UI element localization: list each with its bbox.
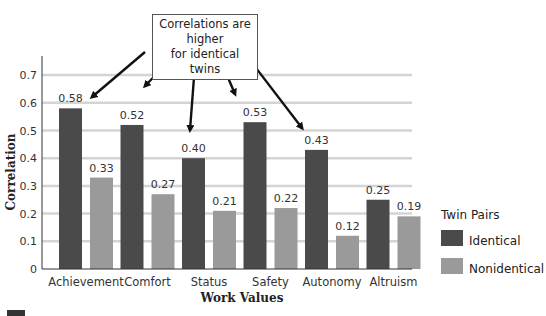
data-label: 0.33: [89, 162, 114, 175]
data-label: 0.19: [397, 200, 422, 213]
x-tick-label: Safety: [252, 275, 289, 289]
annotation-line-1: Correlations are higher: [155, 17, 255, 47]
legend-label-nonidentical: Nonidentical: [469, 262, 544, 276]
x-tick-label: Comfort: [124, 275, 171, 289]
legend-swatch-identical: [441, 230, 463, 246]
y-tick-label: 0: [30, 263, 37, 276]
annotation-line-2: for identical twins: [155, 47, 255, 77]
bar-identical-achievement: [59, 108, 82, 269]
data-label: 0.27: [151, 178, 176, 191]
bar-nonidentical-achievement: [90, 178, 113, 269]
corner-mark: [7, 310, 25, 316]
x-tick-label: Autonomy: [302, 275, 361, 289]
bar-identical-altruism: [367, 200, 390, 269]
bar-identical-status: [182, 158, 205, 269]
bar-nonidentical-autonomy: [336, 236, 359, 269]
y-tick-label: 0.1: [20, 235, 38, 248]
y-tick-label: 0.7: [20, 69, 38, 82]
bar-identical-safety: [244, 122, 267, 269]
legend-title: Twin Pairs: [441, 208, 544, 222]
y-tick-label: 0.2: [20, 208, 38, 221]
data-label: 0.22: [274, 192, 299, 205]
data-label: 0.12: [335, 220, 360, 233]
x-tick-label: Status: [191, 275, 228, 289]
bar-nonidentical-comfort: [152, 194, 175, 269]
data-label: 0.58: [58, 92, 83, 105]
legend: Twin Pairs Identical Nonidentical: [441, 208, 544, 281]
y-axis-ticks: 00.10.20.30.40.50.60.7: [20, 69, 38, 276]
data-label: 0.52: [120, 109, 145, 122]
data-label: 0.40: [181, 142, 206, 155]
data-label: 0.21: [212, 195, 237, 208]
y-tick-label: 0.6: [20, 97, 38, 110]
y-tick-label: 0.3: [20, 180, 38, 193]
bar-nonidentical-safety: [275, 208, 298, 269]
data-label: 0.53: [243, 106, 268, 119]
bar-nonidentical-status: [213, 211, 236, 269]
bar-nonidentical-altruism: [398, 216, 421, 269]
y-tick-label: 0.5: [20, 125, 38, 138]
legend-item-identical: Identical: [441, 225, 544, 251]
y-tick-label: 0.4: [20, 152, 38, 165]
data-label: 0.43: [304, 134, 329, 147]
y-axis-title: Correlation: [4, 133, 18, 210]
annotation-callout: Correlations are higher for identical tw…: [152, 14, 258, 80]
bar-identical-comfort: [121, 125, 144, 269]
legend-swatch-nonidentical: [441, 258, 463, 274]
x-axis-categories: AchievementComfortStatusSafetyAutonomyAl…: [48, 275, 417, 289]
data-label: 0.25: [366, 184, 391, 197]
legend-label-identical: Identical: [469, 234, 520, 248]
x-axis-title: Work Values: [200, 291, 284, 305]
legend-item-nonidentical: Nonidentical: [441, 253, 544, 279]
x-tick-label: Altruism: [370, 275, 418, 289]
bar-identical-autonomy: [305, 150, 328, 269]
x-tick-label: Achievement: [48, 275, 124, 289]
